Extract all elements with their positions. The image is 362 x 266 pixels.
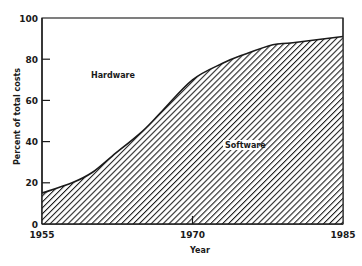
hardware-label: Hardware bbox=[91, 71, 136, 80]
y-axis-label: Percent of total costs bbox=[13, 68, 22, 165]
software-label: Software bbox=[225, 141, 266, 150]
y-tick-label: 20 bbox=[25, 178, 38, 188]
plot-area bbox=[42, 18, 343, 224]
area-chart: 020406080100 195519701985 Hardware Softw… bbox=[0, 0, 362, 266]
x-tick-label: 1985 bbox=[330, 230, 355, 240]
y-tick-label: 40 bbox=[25, 137, 38, 147]
x-tick-label: 1955 bbox=[29, 230, 54, 240]
x-tick-label: 1970 bbox=[180, 230, 205, 240]
y-tick-label: 100 bbox=[19, 14, 38, 24]
y-tick-label: 0 bbox=[32, 220, 38, 230]
y-tick-label: 60 bbox=[25, 96, 38, 106]
x-axis-label: Year bbox=[189, 246, 210, 255]
y-tick-label: 80 bbox=[25, 55, 38, 65]
